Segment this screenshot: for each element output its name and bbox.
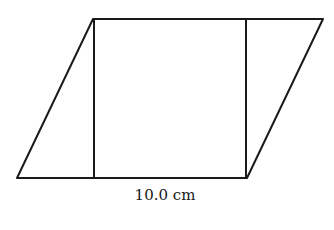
parallelogram-figure: 10.0 cm [0, 0, 334, 230]
parallelogram-outline [17, 19, 323, 178]
base-length-label: 10.0 cm [135, 186, 196, 204]
diagram-canvas: 10.0 cm [0, 0, 334, 230]
